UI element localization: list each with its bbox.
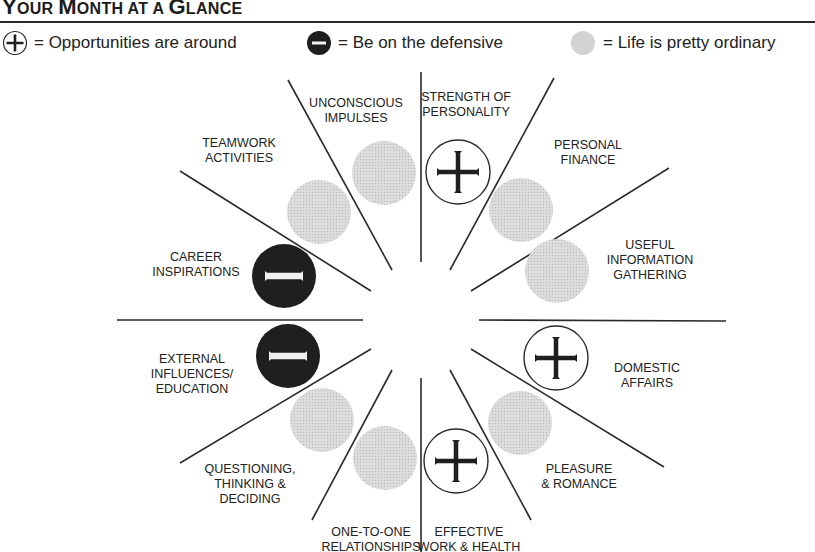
sector-label-line: ONE-TO-ONE — [321, 525, 420, 540]
sector-label-line: ACTIVITIES — [202, 151, 276, 166]
spoke-line — [479, 320, 726, 321]
gray-circle-icon — [352, 141, 416, 205]
sector-label-teamwork-activities: TEAMWORKACTIVITIES — [202, 136, 276, 166]
sector-label-line: IMPULSES — [309, 111, 403, 126]
sector-label-line: PERSONALITY — [421, 105, 511, 120]
sector-label-line: INFLUENCES/ — [151, 367, 234, 382]
plus-circle-icon — [426, 140, 490, 204]
minus-circle-icon — [252, 244, 316, 308]
sector-label-line: USEFUL — [607, 238, 694, 253]
sector-label-line: EXTERNAL — [151, 352, 234, 367]
sector-label-line: GATHERING — [607, 268, 694, 283]
sector-label-line: THINKING & — [205, 477, 296, 492]
sector-label-pleasure-romance: PLEASURE& ROMANCE — [541, 462, 617, 492]
sector-label-line: DECIDING — [205, 492, 296, 507]
sector-label-strength-of-personality: STRENGTH OFPERSONALITY — [421, 90, 511, 120]
gray-circle-icon — [525, 239, 589, 303]
sector-label-personal-finance: PERSONALFINANCE — [554, 138, 622, 168]
sector-label-line: PLEASURE — [541, 462, 617, 477]
sector-label-line: STRENGTH OF — [421, 90, 511, 105]
plus-circle-icon — [524, 326, 588, 390]
sector-label-line: WORK & HEALTH — [418, 540, 521, 552]
sector-label-one-to-one-relationships: ONE-TO-ONERELATIONSHIPS — [321, 525, 420, 552]
minus-circle-icon — [256, 324, 320, 388]
sector-label-unconscious-impulses: UNCONSCIOUSIMPULSES — [309, 96, 403, 126]
sector-label-line: TEAMWORK — [202, 136, 276, 151]
sector-label-line: EDUCATION — [151, 382, 234, 397]
sector-label-line: AFFAIRS — [614, 376, 680, 391]
sector-label-line: QUESTIONING, — [205, 462, 296, 477]
sector-label-line: CAREER — [152, 250, 239, 265]
gray-circle-icon — [353, 426, 417, 490]
sector-label-line: RELATIONSHIPS — [321, 540, 420, 552]
gray-circle-icon — [489, 178, 553, 242]
sector-label-line: INSPIRATIONS — [152, 265, 239, 280]
sector-label-line: INFORMATION — [607, 253, 694, 268]
sector-label-effective-work-health: EFFECTIVEWORK & HEALTH — [418, 525, 521, 552]
gray-circle-icon — [488, 391, 552, 455]
sector-label-external-influences-education: EXTERNALINFLUENCES/EDUCATION — [151, 352, 234, 397]
sector-label-line: & ROMANCE — [541, 477, 617, 492]
sector-label-line: EFFECTIVE — [418, 525, 521, 540]
sector-label-line: PERSONAL — [554, 138, 622, 153]
sector-label-domestic-affairs: DOMESTICAFFAIRS — [614, 361, 680, 391]
sector-label-useful-information-gathering: USEFULINFORMATIONGATHERING — [607, 238, 694, 283]
sector-label-line: UNCONSCIOUS — [309, 96, 403, 111]
sector-label-line: FINANCE — [554, 153, 622, 168]
sector-label-line: DOMESTIC — [614, 361, 680, 376]
gray-circle-icon — [287, 180, 351, 244]
sector-label-career-inspirations: CAREERINSPIRATIONS — [152, 250, 239, 280]
gray-circle-icon — [290, 388, 354, 452]
sector-label-questioning-thinking-deciding: QUESTIONING,THINKING &DECIDING — [205, 462, 296, 507]
plus-circle-icon — [424, 429, 488, 493]
